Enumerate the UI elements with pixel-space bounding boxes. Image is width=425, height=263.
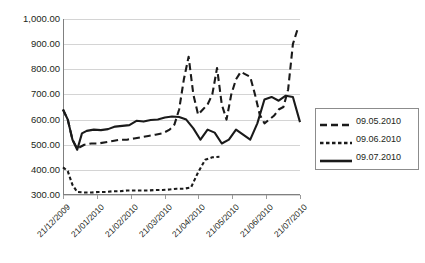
legend-label: 09.07.2010	[356, 153, 401, 162]
legend-label: 09.06.2010	[356, 135, 401, 144]
legend-item[interactable]: 09.06.2010	[319, 131, 414, 147]
y-tick-label: 500.00	[2, 140, 60, 150]
plot-area	[63, 19, 300, 195]
y-tick-label: 900.00	[2, 39, 60, 49]
chart-container: 1,000.00900.00800.00700.00600.00500.0040…	[0, 0, 425, 263]
legend-swatch-icon	[319, 116, 353, 126]
x-tick-label: 21/05/2010	[202, 202, 242, 242]
y-tick-label: 700.00	[2, 90, 60, 100]
x-tick-label: 21/02/2010	[100, 202, 140, 242]
series-layer	[63, 19, 300, 195]
x-tick-label: 21/01/2010	[66, 202, 106, 242]
x-tick-label: 21/12/2009	[32, 202, 72, 242]
x-tick-label: 21/06/2010	[236, 202, 276, 242]
legend-item[interactable]: 09.07.2010	[319, 149, 414, 165]
x-axis-labels: 21/12/200921/01/201021/02/201021/03/2010…	[0, 196, 425, 263]
y-tick-label: 1,000.00	[2, 14, 60, 24]
legend-swatch-icon	[319, 134, 353, 144]
legend-label: 09.05.2010	[356, 117, 401, 126]
y-tick-label: 400.00	[2, 165, 60, 175]
legend: 09.05.201009.06.201009.07.2010	[315, 108, 419, 170]
y-tick-label: 600.00	[2, 115, 60, 125]
legend-swatch-icon	[319, 152, 353, 162]
series-line-09.06.2010	[63, 157, 219, 193]
x-tick-label: 21/07/2010	[269, 202, 309, 242]
y-tick-label: 800.00	[2, 65, 60, 75]
legend-item[interactable]: 09.05.2010	[319, 113, 414, 129]
